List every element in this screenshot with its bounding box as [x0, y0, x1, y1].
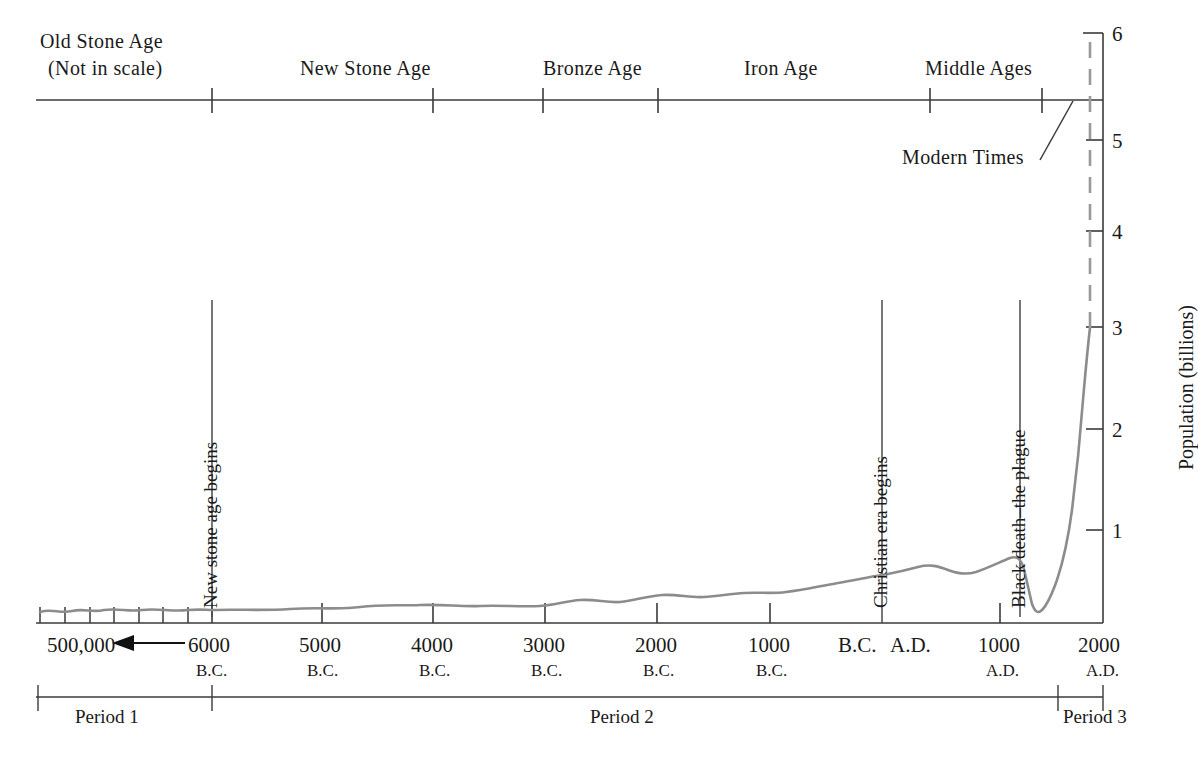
- x-tick-label-1000bc: 1000: [748, 633, 790, 658]
- x-tick-label-ad: A.D.: [890, 633, 931, 658]
- era-label-bronze-age: Bronze Age: [543, 57, 642, 80]
- y-tick-label-5: 5: [1112, 129, 1123, 154]
- x-tick-sub-1000bc: B.C.: [756, 661, 787, 681]
- x-tick-sub-3000bc: B.C.: [531, 661, 562, 681]
- x-tick-label-3000bc: 3000: [523, 633, 565, 658]
- y-tick-label-6: 6: [1112, 22, 1123, 47]
- y-tick-label-1: 1: [1112, 519, 1123, 544]
- x-tick-sub-6000bc: B.C.: [196, 661, 227, 681]
- x-tick-sub-4000bc: B.C.: [419, 661, 450, 681]
- period-label-1: Period 1: [75, 706, 139, 728]
- era-label-iron-age: Iron Age: [744, 57, 818, 80]
- era-label-new-stone-age: New Stone Age: [300, 57, 431, 80]
- time-axis: [36, 603, 1103, 623]
- not-to-scale-arrow-icon: [112, 635, 185, 651]
- era-sublabel-not-in-scale: (Not in scale): [48, 57, 162, 80]
- annotation-label-new-stone-age: New stone age begins: [200, 442, 222, 608]
- x-tick-sub-2000bc: B.C.: [643, 661, 674, 681]
- periods-bar: [36, 685, 1103, 711]
- population-curve: [40, 328, 1090, 612]
- y-axis-title: Population (billions): [1175, 305, 1198, 470]
- era-label-old-stone-age: Old Stone Age: [40, 30, 163, 53]
- annotation-label-christian-era: Christian era begins: [870, 456, 892, 608]
- x-tick-label-4000bc: 4000: [411, 633, 453, 658]
- y-tick-label-4: 4: [1112, 220, 1123, 245]
- y-axis: [1083, 33, 1103, 623]
- y-tick-label-3: 3: [1112, 316, 1123, 341]
- x-tick-label-5000bc: 5000: [299, 633, 341, 658]
- x-tick-label-1000ad: 1000: [978, 633, 1020, 658]
- x-tick-label-2000bc: 2000: [635, 633, 677, 658]
- period-label-2: Period 2: [590, 706, 654, 728]
- modern-times-leader-line: [1040, 101, 1073, 160]
- x-tick-label-2000ad: 2000: [1078, 633, 1120, 658]
- era-label-modern-times: Modern Times: [902, 146, 1024, 169]
- x-tick-label-500000: 500,000: [47, 633, 115, 658]
- x-tick-sub-5000bc: B.C.: [307, 661, 338, 681]
- era-axis: [36, 88, 1103, 113]
- x-tick-sub-2000ad: A.D.: [1086, 661, 1119, 681]
- x-tick-label-6000bc: 6000: [188, 633, 230, 658]
- era-label-middle-ages: Middle Ages: [925, 57, 1032, 80]
- x-tick-sub-1000ad: A.D.: [986, 661, 1019, 681]
- annotation-label-black-death: Black death–the plague: [1008, 430, 1030, 608]
- y-tick-label-2: 2: [1112, 418, 1123, 443]
- period-label-3: Period 3: [1063, 706, 1127, 728]
- x-tick-label-bc: B.C.: [838, 633, 877, 658]
